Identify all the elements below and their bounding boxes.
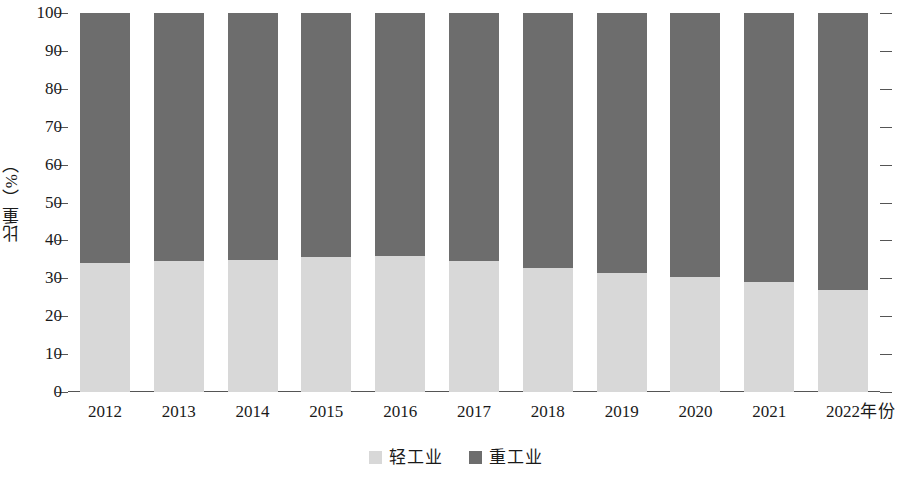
y-axis-tick-mark-right [880,278,892,279]
y-axis-tick-label: 50 [14,194,62,211]
bar-2012 [80,13,130,392]
bar-segment-light-industry [301,257,351,392]
bar-2016 [375,13,425,392]
y-axis-tick-mark-right [880,316,892,317]
bar-2018 [523,13,573,392]
x-axis-tick-label: 2012 [70,402,140,422]
y-axis-tick-label: 80 [14,80,62,97]
y-axis-tick-mark-right [880,240,892,241]
bar-2017 [449,13,499,392]
x-axis-tick-label: 2019 [587,402,657,422]
legend-item-heavy-industry: 重工业 [469,448,543,467]
plot-area: 0102030405060708090100 [68,13,880,392]
stacked-bar-chart: 比重（%） 0102030405060708090100 轻工业 重工业 年份 … [0,0,911,478]
y-axis-tick-mark-right [880,392,892,393]
y-axis-tick-mark-right [880,354,892,355]
y-axis-tick-mark-right [880,89,892,90]
bar-segment-heavy-industry [818,13,868,290]
y-axis-tick-label: 70 [14,118,62,135]
bar-segment-light-industry [154,261,204,392]
y-axis-tick-mark-right [880,13,892,14]
bar-2019 [597,13,647,392]
bar-segment-light-industry [670,277,720,392]
bar-segment-heavy-industry [80,13,130,263]
x-axis-tick-label: 2020 [660,402,730,422]
x-axis-tick-label: 2013 [144,402,214,422]
bar-2021 [744,13,794,392]
x-axis-tick-label: 2022 [808,402,878,422]
bar-segment-light-industry [523,268,573,392]
bar-segment-light-industry [228,260,278,392]
x-axis-tick-label: 2016 [365,402,435,422]
y-axis-tick-label: 100 [14,4,62,21]
y-axis-tick-mark-right [880,165,892,166]
bar-segment-heavy-industry [744,13,794,282]
bar-2014 [228,13,278,392]
chart-legend: 轻工业 重工业 [0,448,911,467]
bar-segment-heavy-industry [301,13,351,257]
bar-segment-light-industry [375,256,425,392]
y-axis-tick-label: 90 [14,42,62,59]
y-axis-tick-mark-right [880,203,892,204]
y-axis-tick-mark-right [880,127,892,128]
x-axis-tick-label: 2018 [513,402,583,422]
x-axis-tick-label: 2014 [218,402,288,422]
legend-label-heavy-industry: 重工业 [489,448,543,467]
y-axis-tick-label: 60 [14,156,62,173]
bar-2015 [301,13,351,392]
bar-segment-light-industry [597,273,647,392]
x-axis-tick-label: 2017 [439,402,509,422]
y-axis-tick-label: 20 [14,307,62,324]
legend-swatch-icon-heavy-industry [469,451,482,464]
legend-item-light-industry: 轻工业 [369,448,443,467]
legend-label-light-industry: 轻工业 [389,448,443,467]
bar-segment-heavy-industry [154,13,204,261]
bar-segment-light-industry [449,261,499,392]
bar-segment-heavy-industry [228,13,278,260]
y-axis-tick-label: 30 [14,269,62,286]
y-axis-tick-label: 40 [14,231,62,248]
bar-segment-heavy-industry [597,13,647,273]
x-axis-tick-label: 2021 [734,402,804,422]
bar-2013 [154,13,204,392]
y-axis-tick-mark-right [880,51,892,52]
y-axis-tick-label: 10 [14,345,62,362]
bar-segment-heavy-industry [523,13,573,268]
y-axis-tick-label: 0 [14,383,62,400]
bar-segment-light-industry [744,282,794,392]
bar-2022 [818,13,868,392]
bar-segment-light-industry [80,263,130,392]
bar-2020 [670,13,720,392]
bar-segment-heavy-industry [375,13,425,256]
bar-segment-heavy-industry [449,13,499,261]
legend-swatch-icon-light-industry [369,451,382,464]
x-axis-tick-label: 2015 [291,402,361,422]
bar-segment-light-industry [818,290,868,392]
bar-segment-heavy-industry [670,13,720,277]
